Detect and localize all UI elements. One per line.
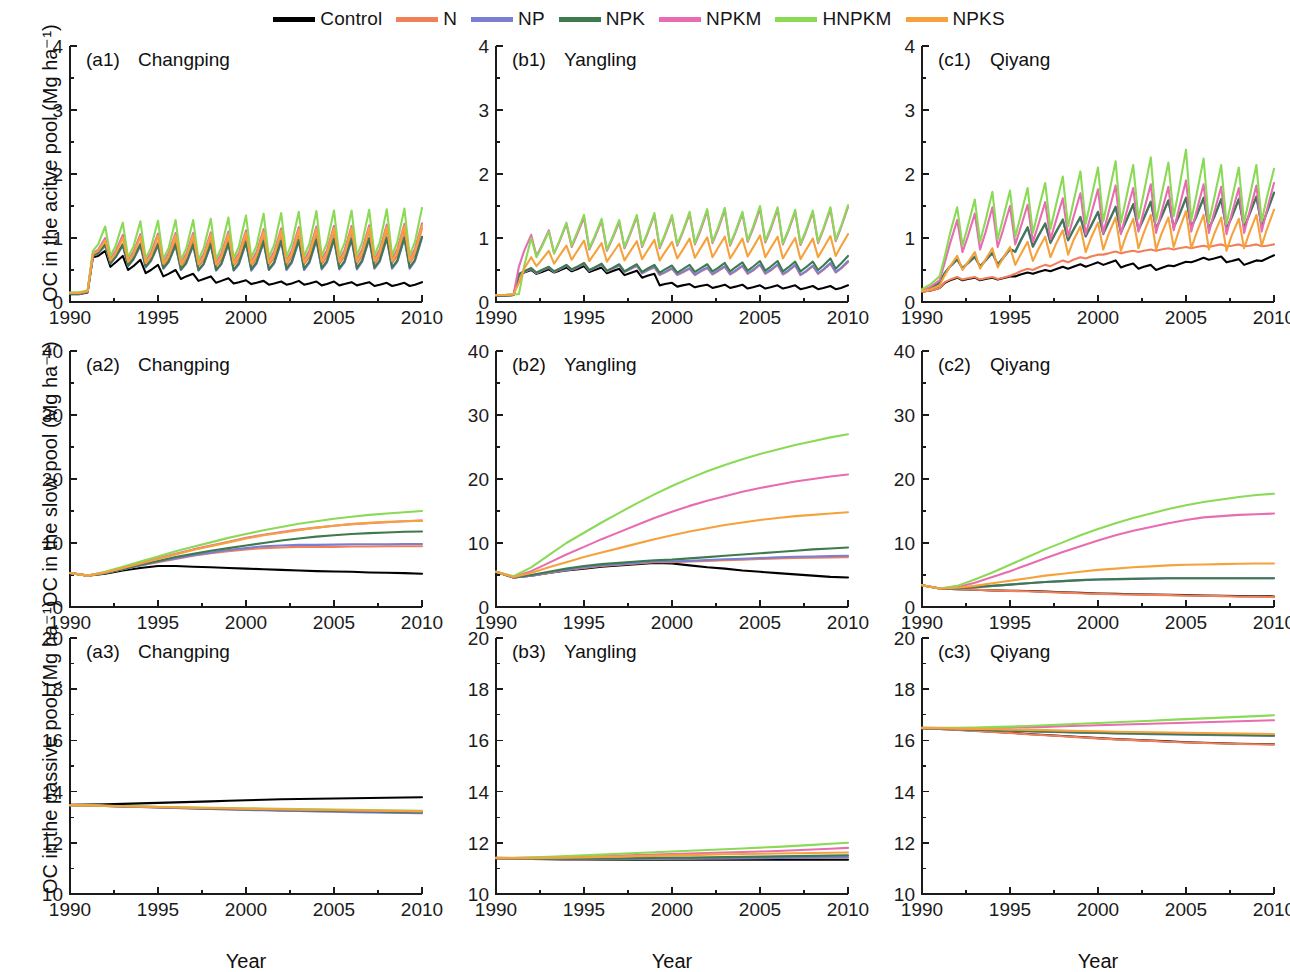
x-tick-label: 2010	[827, 307, 869, 328]
series-line-control	[922, 255, 1274, 291]
panel-tag-b3: (b3)	[512, 641, 546, 662]
legend-label-n: N	[443, 8, 457, 30]
x-tick-label: 1995	[989, 899, 1031, 920]
legend-item-np[interactable]: NP	[471, 8, 545, 30]
series-line-control	[496, 266, 848, 295]
legend-swatch-control	[273, 17, 315, 22]
x-tick-label: 1995	[989, 307, 1031, 328]
panel-title-c1: Qiyang	[990, 49, 1050, 70]
panel-title-b3: Yangling	[564, 641, 637, 662]
series-line-npks	[496, 512, 848, 577]
x-tick-label: 1990	[475, 899, 517, 920]
y-tick-label: 16	[468, 730, 489, 751]
x-axis-title-b3: Year	[496, 950, 848, 972]
panel-tag-a3: (a3)	[86, 641, 120, 662]
x-tick-label: 2005	[739, 307, 781, 328]
plot-c1: 0123419901995200020052010(c1)Qiyang	[864, 34, 1290, 344]
y-axis-title-row3: OC in the passive pool (Mg ha⁻¹)	[38, 601, 62, 894]
panel-tag-c1: (c1)	[938, 49, 971, 70]
x-tick-label: 2005	[1165, 899, 1207, 920]
y-tick-label: 20	[468, 469, 489, 490]
plot-a1: 0123419901995200020052010(a1)Changping	[12, 34, 438, 344]
legend-item-hnpkm[interactable]: HNPKM	[775, 8, 891, 30]
legend-item-control[interactable]: Control	[273, 8, 382, 30]
panel-title-a1: Changping	[138, 49, 230, 70]
series-line-control	[70, 251, 422, 295]
legend-item-npks[interactable]: NPKS	[906, 8, 1005, 30]
legend-swatch-n	[396, 17, 438, 22]
legend-item-npkm[interactable]: NPKM	[659, 8, 761, 30]
panel-a1: OC in the acitve pool (Mg ha⁻¹)012341990…	[12, 34, 438, 344]
legend-swatch-hnpkm	[775, 17, 817, 22]
x-tick-label: 2000	[651, 899, 693, 920]
y-tick-label: 3	[478, 100, 489, 121]
legend-swatch-npks	[906, 17, 948, 22]
panel-c3: Year10121416182019901995200020052010(c3)…	[864, 626, 1290, 936]
x-axis-title-a3: Year	[70, 950, 422, 972]
x-tick-label: 2000	[1077, 899, 1119, 920]
legend-item-npk[interactable]: NPK	[559, 8, 645, 30]
legend-label-npks: NPKS	[953, 8, 1005, 30]
axis-spines-b2	[496, 351, 848, 607]
y-tick-label: 14	[468, 782, 490, 803]
y-tick-label: 2	[904, 164, 915, 185]
panel-tag-c3: (c3)	[938, 641, 971, 662]
legend-label-control: Control	[320, 8, 382, 30]
panel-b2: 01020304019901995200020052010(b2)Yanglin…	[438, 339, 864, 649]
axis-spines-c3	[922, 638, 1274, 894]
y-tick-label: 18	[894, 679, 915, 700]
series-line-npkm	[922, 180, 1274, 290]
panel-c2: 01020304019901995200020052010(c2)Qiyang	[864, 339, 1290, 649]
y-tick-label: 10	[894, 533, 915, 554]
y-tick-label: 12	[894, 833, 915, 854]
panel-tag-b1: (b1)	[512, 49, 546, 70]
y-tick-label: 20	[894, 628, 915, 649]
legend-swatch-npk	[559, 17, 601, 22]
x-tick-label: 2010	[827, 899, 869, 920]
y-tick-label: 1	[478, 228, 489, 249]
panel-title-b1: Yangling	[564, 49, 637, 70]
x-tick-label: 2005	[1165, 307, 1207, 328]
series-line-npks	[922, 210, 1274, 291]
series-line-npk	[70, 237, 422, 294]
y-tick-label: 10	[468, 533, 489, 554]
panel-title-a2: Changping	[138, 354, 230, 375]
y-axis-title-row1: OC in the acitve pool (Mg ha⁻¹)	[38, 24, 62, 302]
x-tick-label: 2000	[1077, 307, 1119, 328]
x-tick-label: 1995	[137, 307, 179, 328]
y-tick-label: 20	[468, 628, 489, 649]
series-line-npk	[496, 256, 848, 296]
panel-title-c2: Qiyang	[990, 354, 1050, 375]
legend-swatch-npkm	[659, 17, 701, 22]
x-tick-label: 2010	[401, 899, 443, 920]
x-tick-label: 2000	[651, 307, 693, 328]
legend: ControlNNPNPKNPKMHNPKMNPKS	[0, 0, 1278, 38]
x-tick-label: 1995	[563, 899, 605, 920]
legend-item-n[interactable]: N	[396, 8, 457, 30]
plot-b1: 0123419901995200020052010(b1)Yangling	[438, 34, 864, 344]
panel-tag-c2: (c2)	[938, 354, 971, 375]
panel-grid: OC in the acitve pool (Mg ha⁻¹)012341990…	[0, 34, 1278, 964]
y-tick-label: 20	[894, 469, 915, 490]
x-tick-label: 2000	[225, 307, 267, 328]
y-tick-label: 4	[904, 36, 915, 57]
x-axis-title-c3: Year	[922, 950, 1274, 972]
axis-spines-a3	[70, 638, 422, 894]
x-tick-label: 2005	[313, 899, 355, 920]
x-tick-label: 2000	[225, 899, 267, 920]
y-tick-label: 40	[468, 341, 489, 362]
axis-spines-a1	[70, 46, 422, 302]
plot-b3: 10121416182019901995200020052010(b3)Yang…	[438, 626, 864, 936]
series-line-control	[496, 563, 848, 578]
panel-a3: OC in the passive pool (Mg ha⁻¹)Year1012…	[12, 626, 438, 936]
legend-items: ControlNNPNPKNPKMHNPKMNPKS	[273, 8, 1004, 30]
legend-label-npkm: NPKM	[706, 8, 761, 30]
x-tick-label: 1990	[49, 307, 91, 328]
panel-title-c3: Qiyang	[990, 641, 1050, 662]
series-line-control	[70, 797, 422, 805]
y-tick-label: 30	[468, 405, 489, 426]
panel-a2: OC in the slow pool (Mg ha⁻¹)01020304019…	[12, 339, 438, 649]
y-tick-label: 16	[894, 730, 915, 751]
y-tick-label: 3	[904, 100, 915, 121]
